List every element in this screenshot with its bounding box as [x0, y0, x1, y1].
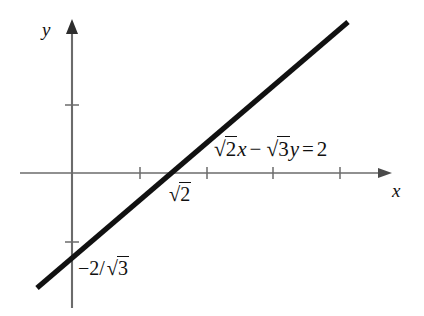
x-intercept-label: √2 [167, 184, 191, 204]
y-axis-label: y [42, 20, 50, 39]
equation-operator: − [247, 137, 265, 161]
equation-equals-sign: = [299, 137, 317, 161]
equation-term1-variable: x [237, 137, 246, 161]
radical-sign-icon: √ [214, 137, 226, 161]
radicand: 3 [277, 136, 290, 161]
math-figure: y x √2 −2/√3 √2x−√3y=2 [0, 0, 424, 316]
y-intercept-label: −2/√3 [78, 258, 129, 278]
sqrt-group-term2: √3 [264, 139, 289, 160]
equation-rhs: 2 [317, 137, 328, 161]
radicand: 2 [179, 182, 191, 205]
equation-label: √2x−√3y=2 [212, 139, 327, 160]
y-axis-arrowhead [66, 19, 78, 34]
sqrt-group: √3 [105, 258, 129, 278]
sqrt-group: √2 [167, 184, 191, 204]
x-axis-arrowhead [378, 168, 392, 178]
radicand: 3 [117, 256, 129, 279]
x-axis-label: x [392, 181, 400, 200]
radicand: 2 [225, 136, 238, 161]
y-intercept-prefix: −2/ [78, 257, 105, 279]
equation-term2-variable: y [290, 137, 299, 161]
sqrt-group-term1: √2 [212, 139, 237, 160]
